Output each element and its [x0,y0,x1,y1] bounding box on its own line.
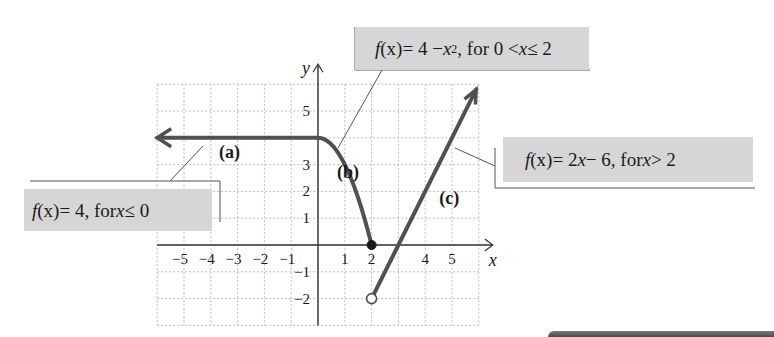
label-b-cond1: , for 0 < [457,39,518,58]
x-tick-label: −2 [252,251,268,267]
x-tick-label: −4 [199,251,215,267]
x-axis-label: x [488,250,497,270]
formula-label-b: f(x) = 4 − x2, for 0 < x ≤ 2 [355,27,589,70]
y-axis-label: y [300,58,310,78]
y-tick-label: 5 [303,103,311,119]
curve-tag-c: (c) [439,188,459,209]
y-tick-label: −2 [294,291,310,307]
formula-label-a: f(x) = 4, for x ≤ 0 [24,189,212,231]
label-b-paren: (x) [380,39,402,58]
label-c-var: x [577,150,585,169]
label-b-var: x [443,39,451,58]
closed-endpoint-dot [367,241,376,250]
page-edge-bar [548,331,774,337]
label-c-cond2: > 2 [651,150,676,169]
x-tick-label: 4 [421,251,429,267]
label-b-cond2: ≤ 2 [527,39,552,58]
label-b-var2: x [519,39,527,58]
curve-c [372,90,477,299]
label-c-cond1: − 6, for [586,150,643,169]
leader-line-a [170,146,203,181]
label-a-var: x [116,201,124,220]
label-c-paren: (x) [530,150,552,169]
label-a-rest: = 4, for [59,201,116,220]
label-c-var2: x [642,150,650,169]
y-tick-label: 3 [303,157,311,173]
leader-line-c [455,148,495,166]
open-endpoint-dot [367,294,377,304]
y-tick-label: 2 [303,183,311,199]
curve-tag-b: (b) [337,162,359,183]
label-a-paren: (x) [37,201,59,220]
x-tick-label: −1 [279,251,295,267]
curve-tag-a: (a) [219,142,240,163]
x-tick-label: 5 [448,251,456,267]
y-tick-label: −1 [294,264,310,280]
label-a-cond: ≤ 0 [125,201,150,220]
x-tick-label: 1 [341,251,349,267]
x-tick-label: 2 [368,251,376,267]
x-tick-label: −5 [172,251,188,267]
y-tick-label: 1 [303,210,311,226]
label-c-rest: = 2 [552,150,577,169]
piecewise-function-figure: xy−5−4−3−2−112455321−1−2(a)(b)(c) f(x) =… [0,0,774,337]
label-b-rest: = 4 − [402,39,442,58]
formula-label-c: f(x) = 2x − 6, for x > 2 [503,137,753,182]
x-tick-label: −3 [226,251,242,267]
